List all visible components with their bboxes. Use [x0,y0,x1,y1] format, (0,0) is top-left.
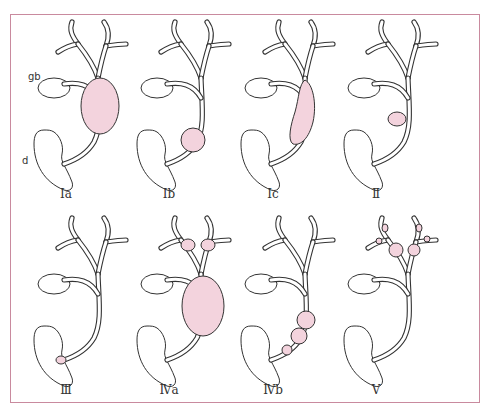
cyst-choledochocele [56,356,66,364]
cyst-intra-extrahepatic [181,239,224,336]
gallbladder-label: gb [28,71,41,82]
cyst-multiple-extrahepatic [282,311,315,355]
gallbladder-shape [245,78,277,98]
cyst-fusiform-long [290,80,315,144]
type-label: Ib [163,187,176,201]
cyst-fusiform-large [81,78,119,134]
panel-type-II: Ⅱ [344,22,436,201]
cyst-diverticulum [388,112,406,126]
type-label: Ⅳb [263,383,283,397]
type-label: Ⅲ [60,383,72,397]
gallbladder-shape [141,78,173,98]
gallbladder-shape [38,78,70,98]
type-label: Ⅳa [159,383,178,397]
type-label: Ic [267,187,279,201]
panel-type-Ib: Ib [137,22,229,201]
gallbladder-shape [348,274,380,294]
choledochal-cyst-classification-figure: gbdIaIbIcⅡⅢⅣaⅣbⅤ [0,0,488,415]
panel-type-Ic: Ic [241,22,333,201]
gallbladder-shape [141,274,173,294]
panel-type-III: Ⅲ [34,218,126,397]
panel-type-IVa: Ⅳa [137,218,229,397]
type-label: Ⅴ [371,383,381,397]
duodenum-label: d [22,155,28,166]
panel-type-Ia: gbdIa [22,22,126,201]
type-label: Ia [60,187,72,201]
panel-type-V: Ⅴ [344,218,436,397]
gallbladder-shape [348,78,380,98]
panel-type-IVb: Ⅳb [241,218,333,397]
gallbladder-shape [38,274,70,294]
gallbladder-shape [245,274,277,294]
type-label: Ⅱ [372,187,380,201]
cyst-focal-distal [181,128,205,152]
